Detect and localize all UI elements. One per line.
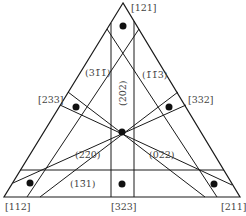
plane-line-311-diag: [27, 29, 139, 197]
corner-label-left: [112]: [5, 201, 31, 212]
edge-label-bottom: [323]: [111, 201, 137, 212]
pole-dot-bottom-right: [211, 181, 218, 188]
pole-dot-left: [73, 104, 80, 111]
edge-label-right: [332]: [188, 94, 214, 105]
plane-label-131: (13̄1): [70, 178, 96, 189]
plane-label-022: (022): [149, 149, 175, 160]
edge-label-left: [233]: [38, 94, 64, 105]
plane-label-311: (31̄1̄): [85, 67, 111, 78]
plane-line-022-b: [60, 105, 232, 185]
plane-line-113-diag: [107, 29, 217, 197]
pole-dot-bottom-center: [119, 181, 126, 188]
stereographic-triangle-diagram: [121] [112] [211] [233] [332] [323] (31̄…: [0, 0, 246, 216]
pole-dot-center: [119, 129, 126, 136]
plane-line-220-a: [40, 92, 178, 197]
plane-label-113: (1̄1̄3): [142, 69, 168, 80]
corner-label-right: [211]: [221, 201, 246, 212]
pole-dot-right: [166, 104, 173, 111]
pole-dot-bottom-left: [27, 180, 34, 187]
corner-label-top: [121]: [131, 2, 157, 13]
pole-dot-top: [120, 23, 127, 30]
plane-label-220: (22̄0): [75, 149, 101, 160]
plane-label-202: (202): [117, 80, 128, 106]
